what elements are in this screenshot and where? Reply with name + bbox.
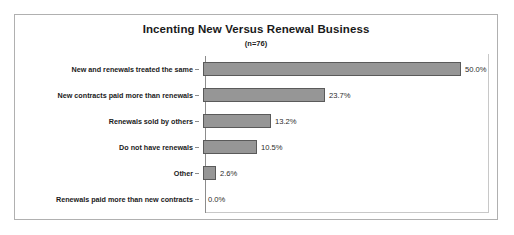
- bar-row: Renewals paid more than new contracts 0.…: [15, 186, 499, 212]
- bar-zone: 0.0%: [203, 186, 499, 212]
- bar[interactable]: [203, 62, 461, 76]
- bar-row: Other 2.6%: [15, 160, 499, 186]
- axis-tick-icon: [195, 121, 199, 122]
- axis-tick-icon: [195, 95, 199, 96]
- axis-tick-icon: [195, 173, 199, 174]
- bar-value-label: 10.5%: [261, 143, 283, 152]
- bar-value-label: 2.6%: [220, 169, 237, 178]
- bar[interactable]: [203, 140, 257, 154]
- chart-subtitle: (n=76): [15, 38, 497, 49]
- axis-tick-icon: [195, 69, 199, 70]
- category-label: Renewals paid more than new contracts: [15, 195, 199, 204]
- bar-row: New and renewals treated the same 50.0%: [15, 56, 499, 82]
- bar-value-label: 50.0%: [465, 65, 487, 74]
- chart-card: Incenting New Versus Renewal Business (n…: [14, 14, 498, 220]
- axis-tick-icon: [195, 147, 199, 148]
- category-label: Other: [15, 169, 199, 178]
- bar[interactable]: [203, 166, 216, 180]
- bar-rows: New and renewals treated the same 50.0% …: [15, 56, 499, 213]
- title-block: Incenting New Versus Renewal Business (n…: [15, 22, 497, 49]
- bar-zone: 2.6%: [203, 160, 499, 186]
- bar[interactable]: [203, 88, 325, 102]
- bar-value-label: 13.2%: [275, 117, 297, 126]
- bar-value-label: 0.0%: [208, 195, 225, 204]
- category-label: New contracts paid more than renewals: [15, 91, 199, 100]
- bar-zone: 13.2%: [203, 108, 499, 134]
- bar-value-label: 23.7%: [329, 91, 351, 100]
- bar-row: New contracts paid more than renewals 23…: [15, 82, 499, 108]
- category-label: New and renewals treated the same: [15, 65, 199, 74]
- category-label: Renewals sold by others: [15, 117, 199, 126]
- bar-row: Renewals sold by others 13.2%: [15, 108, 499, 134]
- bar-zone: 10.5%: [203, 134, 499, 160]
- bar-zone: 23.7%: [203, 82, 499, 108]
- chart-title: Incenting New Versus Renewal Business: [15, 22, 497, 36]
- category-label: Do not have renewals: [15, 143, 199, 152]
- bar-row: Do not have renewals 10.5%: [15, 134, 499, 160]
- bar[interactable]: [203, 114, 271, 128]
- axis-tick-icon: [195, 199, 199, 200]
- bar-zone: 50.0%: [203, 56, 499, 82]
